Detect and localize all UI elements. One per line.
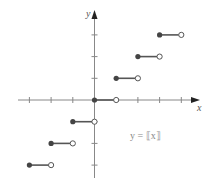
open-endpoint-dot: [157, 54, 162, 59]
closed-endpoint-dot: [135, 54, 140, 59]
y-axis-arrow-icon: [92, 10, 98, 19]
open-endpoint-dot: [179, 32, 184, 37]
x-axis-label: x: [196, 102, 202, 113]
step-segment: [27, 163, 54, 168]
open-endpoint-dot: [49, 163, 54, 168]
open-endpoint-dot: [135, 76, 140, 81]
step-segment: [49, 141, 76, 146]
closed-endpoint-dot: [70, 119, 75, 124]
step-segment: [92, 97, 119, 102]
step-segment: [70, 119, 97, 124]
step-segment: [114, 76, 141, 81]
closed-endpoint-dot: [49, 141, 54, 146]
y-axis-label: y: [85, 8, 91, 19]
step-function-graph: y x y = ⟦x⟧: [0, 0, 213, 190]
open-endpoint-dot: [70, 141, 75, 146]
open-endpoint-dot: [114, 97, 119, 102]
step-segment: [157, 32, 184, 37]
closed-endpoint-dot: [114, 76, 119, 81]
closed-endpoint-dot: [92, 97, 97, 102]
closed-endpoint-dot: [27, 163, 32, 168]
open-endpoint-dot: [92, 119, 97, 124]
closed-endpoint-dot: [157, 32, 162, 37]
step-segment: [135, 54, 162, 59]
function-label: y = ⟦x⟧: [130, 130, 161, 141]
